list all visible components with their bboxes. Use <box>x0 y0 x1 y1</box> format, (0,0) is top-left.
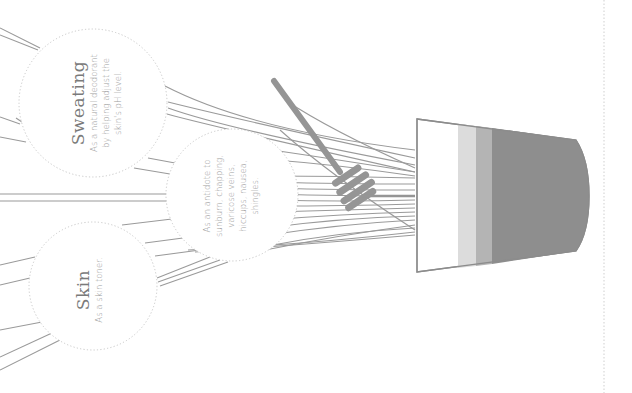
bubble-sweating-text: Sweating As a natural deodorant by helpi… <box>68 23 118 183</box>
honey-jar <box>417 119 589 272</box>
bubble-description: As an antidote to sunburn, chapping, var… <box>201 136 261 256</box>
jar-honey <box>492 128 589 264</box>
bubble-title: Sweating <box>68 23 88 183</box>
jar-band-light <box>458 124 476 268</box>
bubble-title: Skin <box>73 240 93 340</box>
bubble-description: As a natural deodorant by helping adjust… <box>88 23 124 183</box>
bubble-skin-text: Skin As a skin toner. <box>73 240 113 340</box>
jar-band-mid <box>476 126 492 266</box>
bubble-description: As a skin toner. <box>93 240 105 340</box>
bubble-remedies-text: As an antidote to sunburn, chapping, var… <box>201 136 263 256</box>
